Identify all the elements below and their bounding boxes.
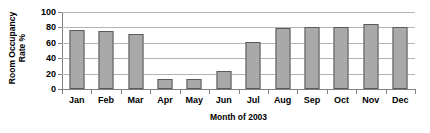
bar[interactable] (216, 71, 231, 89)
x-axis-title: Month of 2003 (62, 112, 415, 122)
y-axis-title-line2: Rate % (17, 12, 27, 84)
bar-slot (150, 12, 179, 89)
bar[interactable] (363, 24, 378, 89)
x-axis-tick-label: Jun (216, 95, 232, 105)
x-axis-tick (268, 90, 269, 94)
x-axis-tick-label: Jan (69, 95, 85, 105)
x-axis-tick (209, 90, 210, 94)
x-axis-tick (91, 90, 92, 94)
bar-slot (356, 12, 385, 89)
bar-slot (297, 12, 326, 89)
x-axis-tick (415, 90, 416, 94)
bar[interactable] (187, 79, 202, 89)
bar-slot (62, 12, 91, 89)
bar-slot (91, 12, 120, 89)
y-axis-tick-label: 0 (51, 84, 56, 94)
x-axis-tick-label: Mar (128, 95, 144, 105)
y-axis-tick-label: 20 (46, 69, 56, 79)
plot-area: 020406080100 (62, 12, 415, 89)
x-axis-tick (121, 90, 122, 94)
x-axis-labels: JanFebMarAprMayJunJulAugSepOctNovDec (62, 95, 415, 107)
x-axis-tick-label: Sep (304, 95, 321, 105)
x-axis-tick (62, 90, 63, 94)
bar-slot (180, 12, 209, 89)
bar[interactable] (128, 34, 143, 89)
x-axis-tick-label: Nov (362, 95, 379, 105)
y-axis-title: Room Occupancy Rate % (0, 0, 34, 96)
x-axis-tick (327, 90, 328, 94)
x-axis-tick (297, 90, 298, 94)
bar[interactable] (99, 31, 114, 89)
bar[interactable] (246, 42, 261, 89)
y-axis-tick-label: 100 (41, 7, 56, 17)
bar-slot (239, 12, 268, 89)
x-axis-tick-label: May (186, 95, 204, 105)
x-axis-tick (150, 90, 151, 94)
x-axis-tick-label: Apr (157, 95, 173, 105)
x-axis-tick-label: Feb (98, 95, 114, 105)
bar-slot (121, 12, 150, 89)
x-axis-tick-label: Dec (392, 95, 409, 105)
bar-slot (209, 12, 238, 89)
bar-slot (268, 12, 297, 89)
bar[interactable] (275, 28, 290, 89)
y-axis-tick-label: 80 (46, 22, 56, 32)
x-axis-tick (239, 90, 240, 94)
bar[interactable] (393, 27, 408, 89)
bar[interactable] (305, 27, 320, 89)
x-axis-tick-label: Jul (247, 95, 260, 105)
x-axis-tick (356, 90, 357, 94)
bar-slot (386, 12, 415, 89)
bar-chart: Room Occupancy Rate % 020406080100 JanFe… (0, 0, 430, 133)
bar[interactable] (334, 27, 349, 89)
bar[interactable] (69, 30, 84, 89)
x-axis-tick (180, 90, 181, 94)
y-axis-tick-label: 40 (46, 53, 56, 63)
bar-slot (327, 12, 356, 89)
x-axis-tick-label: Aug (274, 95, 292, 105)
x-axis-tick-label: Oct (334, 95, 349, 105)
y-axis-title-line1: Room Occupancy (7, 12, 17, 84)
y-axis-tick-label: 60 (46, 38, 56, 48)
x-axis-tick (386, 90, 387, 94)
bar[interactable] (157, 79, 172, 89)
bar-series (62, 12, 415, 89)
